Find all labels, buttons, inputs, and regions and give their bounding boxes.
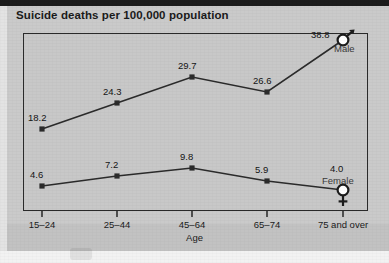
x-axis-title: Age [0,232,389,243]
male-series-label: Male [334,43,355,54]
female-point-marker [39,183,44,188]
x-tick-label-3: 65–74 [237,219,297,230]
female-point-label-0: 4.6 [30,169,43,180]
male-point-marker [264,89,269,94]
female-point-marker [189,165,194,170]
male-series-line [42,40,343,129]
male-point-label-3: 26.6 [253,75,272,86]
x-tick-label-0: 15–24 [12,219,72,230]
chart-page: Suicide deaths per 100,000 population [0,0,389,263]
female-point-marker [114,173,119,178]
female-point-label-2: 9.8 [180,151,193,162]
x-tick-label-2: 45–64 [162,219,222,230]
female-series-label: Female [322,175,354,186]
male-point-label-2: 29.7 [178,60,197,71]
male-point-marker [39,126,44,131]
female-point-label-3: 5.9 [255,164,268,175]
female-symbol-icon [338,185,349,206]
male-point-marker [114,100,119,105]
female-series-line [42,168,343,190]
female-point-marker [264,178,269,183]
male-point-label-1: 24.3 [103,86,122,97]
male-point-label-0: 18.2 [28,112,47,123]
female-point-label-4: 4.0 [330,163,343,174]
male-point-label-4: 38.8 [311,29,330,40]
x-axis-ticks [42,211,343,217]
x-tick-label-1: 25–44 [87,219,147,230]
female-point-label-1: 7.2 [105,159,118,170]
male-point-marker [189,74,194,79]
x-tick-label-4: 75 and over [305,219,381,230]
